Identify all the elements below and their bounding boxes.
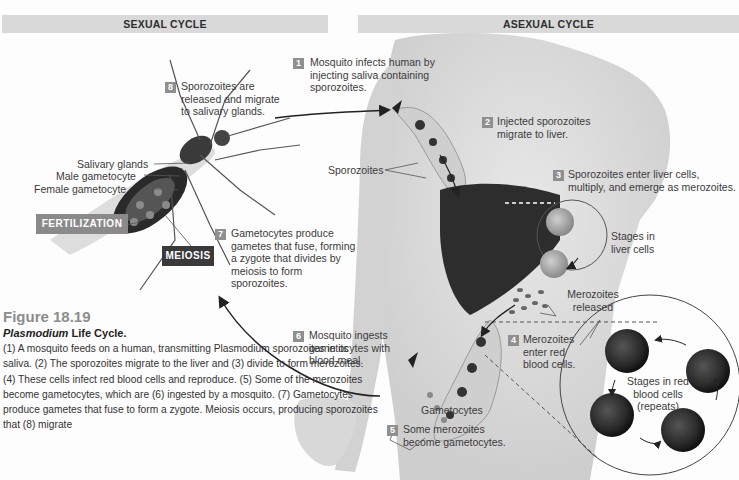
figure-title-rest: Life Cycle. — [68, 327, 126, 339]
label-sporozoites: Sporozoites — [328, 164, 383, 176]
label-male-gametocyte: Male gametocyte — [56, 170, 136, 182]
figure-caption-body: (1) A mosquito feeds on a human, transmi… — [3, 341, 378, 432]
step-4-badge: 4 — [508, 335, 519, 346]
step-8-text: Sporozoites are released and migrate to … — [181, 80, 291, 118]
fertilization-tag: FERTILIZATION — [36, 214, 128, 234]
step-7-text: Gametocytes produce gametes that fuse, f… — [231, 227, 356, 290]
step-5-text: Some merozoites become gametocytes. — [403, 423, 513, 448]
asexual-cycle-header: ASEXUAL CYCLE — [358, 15, 739, 33]
label-salivary-glands: Salivary glands — [77, 158, 148, 170]
label-female-gametocyte: Female gametocyte — [34, 183, 126, 195]
figure-number: Figure 18.19 — [3, 308, 383, 326]
figure-title-italic: Plasmodium — [3, 327, 68, 339]
step-3-badge: 3 — [553, 170, 564, 181]
figure-title: Plasmodium Life Cycle. — [3, 326, 383, 341]
label-stages-red-blood-cells: Stages in red blood cells (repeats) — [624, 375, 692, 413]
step-7-badge: 7 — [215, 229, 226, 240]
sexual-cycle-header: SEXUAL CYCLE — [2, 15, 328, 33]
figure-caption: Figure 18.19 Plasmodium Life Cycle. (1) … — [3, 308, 383, 432]
step-2-text: Injected sporozoites migrate to liver. — [497, 115, 617, 140]
step-5-badge: 5 — [387, 425, 398, 436]
step-2-badge: 2 — [482, 117, 493, 128]
label-gametocytes: Gametocytes — [421, 404, 483, 416]
step-8-badge: 8 — [165, 82, 176, 93]
label-merozoites-released: Merozoites released — [563, 288, 623, 313]
step-1-badge: 1 — [293, 58, 304, 69]
step-3-text: Sporozoites enter liver cells, multiply,… — [568, 168, 738, 193]
step-4-text: Merozoites enter red blood cells. — [523, 333, 593, 371]
meiosis-tag: MEIOSIS — [162, 246, 214, 266]
step-1-text: Mosquito infects human by injecting sali… — [310, 56, 460, 94]
label-stages-liver-cells: Stages in liver cells — [611, 230, 671, 255]
